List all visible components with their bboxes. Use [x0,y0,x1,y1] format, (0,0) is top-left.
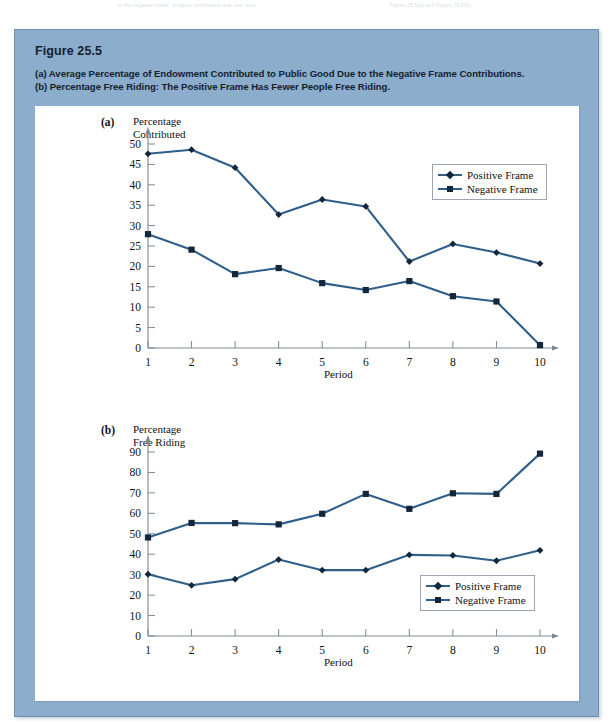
legend-label-positive-frame: Positive Frame [467,169,533,181]
legend-item-negative-frame: Negative Frame [426,593,526,607]
chart-a: (a) Percentage Contributed 0510152025303… [35,116,579,416]
svg-text:30: 30 [130,220,142,232]
svg-text:3: 3 [232,644,238,656]
svg-text:9: 9 [494,356,500,368]
chart-a-plot: 0510152025303540455012345678910 [35,116,579,386]
figure-frame: Figure 25.5 (a) Average Percentage of En… [14,29,599,717]
svg-text:80: 80 [130,466,142,478]
line-diamond-marker-icon [438,169,462,181]
svg-text:6: 6 [363,644,369,656]
chart-b: (b) Percentage Free Riding 0102030405060… [35,424,579,701]
figure-caption: Figure 25.5 (a) Average Percentage of En… [35,44,580,93]
chart-b-x-axis-title: Period [35,656,614,668]
svg-text:8: 8 [450,644,456,656]
figure-number: Figure 25.5 [35,44,580,58]
figure-caption-line-a: (a) Average Percentage of Endowment Cont… [35,68,580,81]
svg-text:45: 45 [130,158,142,170]
svg-text:90: 90 [130,446,142,458]
svg-text:0: 0 [135,630,141,642]
svg-text:10: 10 [130,301,142,313]
svg-text:8: 8 [450,356,456,368]
svg-text:30: 30 [130,569,142,581]
svg-text:50: 50 [130,528,142,540]
svg-text:5: 5 [319,356,325,368]
svg-text:7: 7 [406,356,412,368]
svg-text:40: 40 [130,548,142,560]
svg-text:40: 40 [130,179,142,191]
svg-text:1: 1 [145,356,151,368]
svg-text:1: 1 [145,644,151,656]
legend-item-negative-frame: Negative Frame [438,182,538,196]
svg-text:5: 5 [135,322,141,334]
svg-text:6: 6 [363,356,369,368]
svg-text:5: 5 [319,644,325,656]
legend-item-positive-frame: Positive Frame [426,579,526,593]
chart-a-legend: Positive Frame Negative Frame [432,164,547,200]
chart-b-plot: 010203040506070809012345678910 [35,424,579,674]
chart-b-legend: Positive Frame Negative Frame [420,575,535,611]
line-square-marker-icon [426,594,450,606]
figure-caption-line-b: (b) Percentage Free Riding: The Positive… [35,81,580,94]
svg-text:0: 0 [135,342,141,354]
svg-text:10: 10 [534,644,546,656]
legend-label-negative-frame: Negative Frame [455,594,526,606]
ghost-text-left: in the negative frame, subjects contribu… [118,2,256,8]
legend-item-positive-frame: Positive Frame [438,168,538,182]
page-ghost-text: in the negative frame, subjects contribu… [0,0,614,14]
svg-text:15: 15 [130,281,142,293]
line-square-marker-icon [438,183,462,195]
svg-text:25: 25 [130,240,142,252]
svg-text:2: 2 [189,356,195,368]
chart-a-x-axis-title: Period [35,368,614,380]
legend-label-positive-frame: Positive Frame [455,580,521,592]
ghost-text-right: Figure 25.5(a) and Figure 25.5(b). [390,2,472,8]
legend-label-negative-frame: Negative Frame [467,183,538,195]
line-diamond-marker-icon [426,580,450,592]
plot-panel: (a) Percentage Contributed 0510152025303… [35,106,579,701]
svg-text:20: 20 [130,589,142,601]
svg-text:4: 4 [276,644,282,656]
svg-text:20: 20 [130,260,142,272]
svg-text:4: 4 [276,356,282,368]
svg-text:60: 60 [130,507,142,519]
svg-text:50: 50 [130,138,142,150]
svg-text:10: 10 [534,356,546,368]
svg-text:3: 3 [232,356,238,368]
svg-text:7: 7 [406,644,412,656]
svg-text:70: 70 [130,487,142,499]
svg-text:35: 35 [130,199,142,211]
svg-text:2: 2 [189,644,195,656]
svg-text:9: 9 [494,644,500,656]
svg-text:10: 10 [130,610,142,622]
